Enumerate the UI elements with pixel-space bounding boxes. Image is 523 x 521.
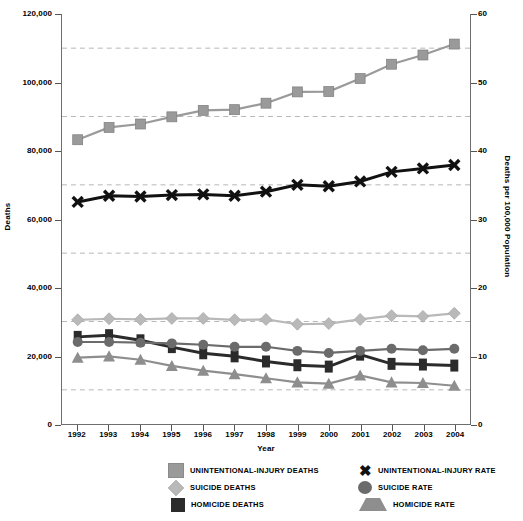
legend-label: UNINTENTIONAL-INJURY RATE	[378, 466, 496, 475]
y-tick-right-4: 40	[478, 146, 508, 155]
series-0	[73, 39, 460, 145]
y-tickmark-right-0	[471, 425, 477, 426]
x-tickmark-1998	[266, 425, 267, 431]
legend-item-square[interactable]: UNINTENTIONAL-INJURY DEATHS	[168, 462, 348, 479]
legend-column-left: UNINTENTIONAL-INJURY DEATHSSUICIDE DEATH…	[168, 462, 348, 513]
y-tick-right-5: 50	[478, 78, 508, 87]
series-3	[73, 160, 460, 207]
y-tick-right-2: 20	[478, 283, 508, 292]
plot-area	[61, 14, 471, 425]
legend-label: HOMICIDE RATE	[393, 500, 455, 509]
x-tickmark-1999	[298, 425, 299, 431]
y-tickmark-right-4	[471, 151, 477, 152]
y-tick-left-4: 80,000	[0, 146, 52, 155]
legend-label: HOMICIDE DEATHS	[191, 500, 264, 509]
x-tick-2004: 2004	[434, 430, 476, 439]
x-tickmark-2000	[329, 425, 330, 431]
chart-figure: Deaths Deaths per 100,000 Population Yea…	[0, 0, 523, 521]
triangle-marker-icon	[359, 498, 387, 511]
square-marker-icon	[168, 463, 184, 478]
legend-item-triangle[interactable]: HOMICIDE RATE	[358, 496, 523, 513]
y-tick-left-1: 20,000	[0, 352, 52, 361]
y-tickmark-right-3	[471, 220, 477, 221]
legend-item-x[interactable]: ✖UNINTENTIONAL-INJURY RATE	[358, 462, 523, 479]
circle-marker-icon	[358, 481, 372, 494]
x-marker-icon: ✖	[358, 464, 372, 478]
series-1	[72, 307, 461, 330]
data-series-layer	[62, 14, 470, 424]
legend-item-diamond[interactable]: SUICIDE DEATHS	[168, 479, 348, 496]
y-tick-left-6: 120,000	[0, 9, 52, 18]
y-tick-right-6: 60	[478, 9, 508, 18]
chart-legend: UNINTENTIONAL-INJURY DEATHSSUICIDE DEATH…	[168, 462, 516, 514]
legend-item-vrect[interactable]: HOMICIDE DEATHS	[168, 496, 348, 513]
legend-label: SUICIDE DEATHS	[190, 483, 256, 492]
y-tickmark-left-0	[55, 425, 61, 426]
y-tickmark-right-5	[471, 83, 477, 84]
x-tickmark-1993	[108, 425, 109, 431]
x-tickmark-1996	[203, 425, 204, 431]
x-tickmark-1997	[234, 425, 235, 431]
y-tick-right-1: 10	[478, 352, 508, 361]
y-tickmark-right-1	[471, 357, 477, 358]
legend-label: SUICIDE RATE	[378, 483, 433, 492]
x-tickmark-1992	[77, 425, 78, 431]
x-tickmark-1995	[171, 425, 172, 431]
x-tickmark-2003	[424, 425, 425, 431]
x-tickmark-2001	[361, 425, 362, 431]
x-tickmark-2002	[392, 425, 393, 431]
legend-label: UNINTENTIONAL-INJURY DEATHS	[190, 466, 319, 475]
x-axis-title: Year	[61, 444, 471, 453]
x-tickmark-2004	[455, 425, 456, 431]
y-tick-right-3: 30	[478, 215, 508, 224]
vrect-marker-icon	[171, 498, 185, 512]
y-tickmark-right-2	[471, 288, 477, 289]
y-tick-left-5: 100,000	[0, 78, 52, 87]
diamond-marker-icon	[168, 479, 184, 495]
legend-item-circle[interactable]: SUICIDE RATE	[358, 479, 523, 496]
legend-column-right: ✖UNINTENTIONAL-INJURY RATESUICIDE RATEHO…	[358, 462, 523, 513]
y-tick-right-0: 0	[478, 420, 508, 429]
y-tickmark-right-6	[471, 14, 477, 15]
x-tickmark-1994	[140, 425, 141, 431]
y-tick-left-2: 40,000	[0, 283, 52, 292]
y-tick-left-3: 60,000	[0, 215, 52, 224]
y-tick-left-0: 0	[0, 420, 52, 429]
